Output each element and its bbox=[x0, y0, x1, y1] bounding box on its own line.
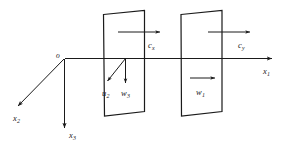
vector-label-cx: cx bbox=[148, 35, 154, 51]
vector-label-w3: w3 bbox=[121, 83, 130, 99]
origin-label: o bbox=[56, 45, 60, 61]
axis-label-x2: x2 bbox=[13, 108, 20, 124]
axis-label-x3: x3 bbox=[69, 125, 76, 141]
vector-label-u2: u2 bbox=[102, 83, 109, 99]
plate-1-outline bbox=[104, 11, 145, 117]
vector-label-cy: cy bbox=[238, 35, 244, 51]
diagram-canvas bbox=[0, 0, 288, 149]
axis-x2 bbox=[18, 59, 64, 106]
vector-label-w1: w1 bbox=[196, 82, 205, 98]
vector-u2 bbox=[108, 59, 126, 82]
axis-label-x1: x1 bbox=[263, 61, 270, 77]
plate-2-outline bbox=[181, 11, 222, 117]
figure-container: o x1 x2 x3 cx cy u2 w3 w1 bbox=[0, 0, 288, 149]
